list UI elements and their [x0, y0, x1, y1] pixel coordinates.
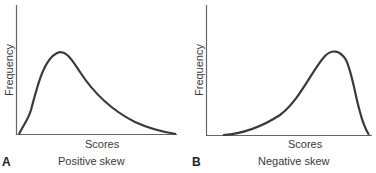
panel-b-axes [206, 5, 372, 136]
panel-a-y-axis-label: Frequency [3, 44, 15, 96]
panel-b-letter: B [192, 155, 201, 169]
panel-a-caption: Positive skew [58, 155, 125, 167]
panel-a-curve [19, 52, 176, 134]
panel-a-axes [16, 5, 177, 135]
panel-b-x-axis-label: Scores [288, 138, 322, 150]
panel-b-curve [223, 51, 369, 135]
panel-a-letter: A [2, 155, 11, 169]
panel-b-caption: Negative skew [258, 155, 330, 167]
panel-b-y-axis-label: Frequency [193, 44, 205, 96]
panel-a-x-axis-label: Scores [85, 138, 119, 150]
